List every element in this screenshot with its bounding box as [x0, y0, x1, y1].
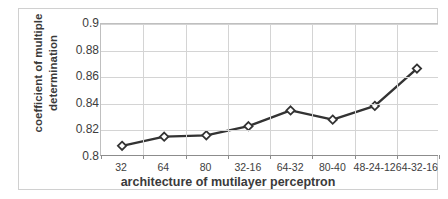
y-tick-label: 0.86 [55, 69, 99, 83]
gridline-vertical [397, 24, 398, 155]
chart-frame: coefficient of multiple determination 0.… [18, 8, 438, 190]
data-point-marker [118, 142, 126, 150]
gridline-vertical [270, 24, 271, 155]
x-tick-mark [101, 155, 102, 159]
data-point-marker [286, 106, 294, 114]
x-tick-mark [397, 155, 398, 159]
plot-area [100, 23, 438, 156]
x-tick-label: 80-40 [319, 161, 346, 173]
gridline-vertical [312, 24, 313, 155]
x-tick-mark [228, 155, 229, 159]
x-tick-mark [143, 155, 144, 159]
y-tick-label: 0.88 [55, 43, 99, 57]
y-axis-title-line-1: coefficient of multiple [31, 14, 46, 133]
y-tick-label: 0.9 [55, 16, 99, 30]
x-tick-label: 32 [115, 161, 127, 173]
data-point-marker [244, 122, 252, 130]
x-tick-label: 48-24-12 [354, 161, 396, 173]
gridline-vertical [355, 24, 356, 155]
y-tick-label: 0.8 [55, 149, 99, 163]
y-tick-label: 0.84 [55, 96, 99, 110]
gridline-vertical [228, 24, 229, 155]
x-tick-mark [312, 155, 313, 159]
x-tick-label: 32-16 [234, 161, 261, 173]
x-tick-label: 64-32 [277, 161, 304, 173]
y-axis-tick-labels: 0.90.880.860.840.820.8 [55, 15, 99, 163]
x-tick-label: 80 [200, 161, 212, 173]
x-tick-mark [186, 155, 187, 159]
gridline-vertical [186, 24, 187, 155]
data-point-marker [160, 133, 168, 141]
gridline-vertical [143, 24, 144, 155]
data-point-marker [202, 131, 210, 139]
x-tick-mark [355, 155, 356, 159]
x-tick-label: 64 [158, 161, 170, 173]
x-tick-mark [270, 155, 271, 159]
x-tick-label: 64-32-16 [396, 161, 438, 173]
x-tick-mark [439, 155, 440, 159]
data-point-marker [328, 115, 336, 123]
chart-figure: coefficient of multiple determination 0.… [0, 0, 448, 199]
y-tick-label: 0.82 [55, 122, 99, 136]
x-axis-title: architecture of mutilayer perceptron [19, 175, 437, 189]
